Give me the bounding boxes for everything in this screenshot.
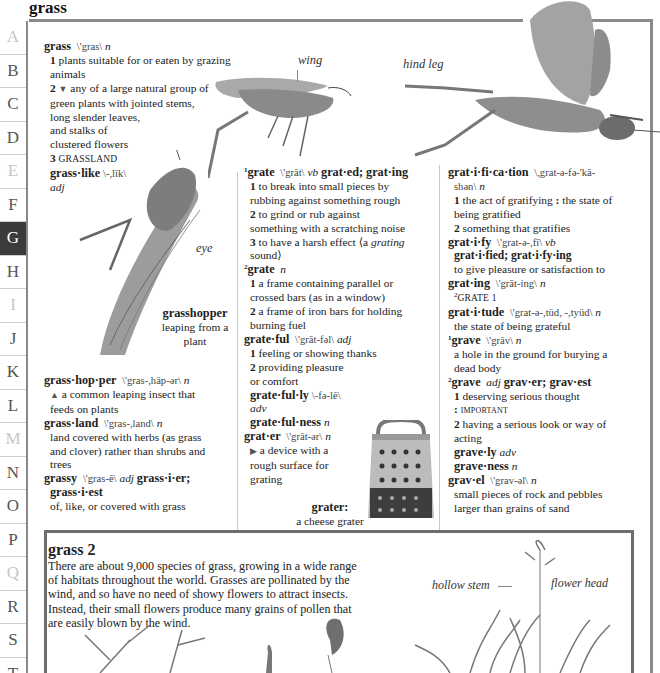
definition: something that gratifies xyxy=(463,222,571,234)
part-of-speech: adj xyxy=(337,333,352,345)
definition: to give pleasure or satisfaction to xyxy=(448,263,648,277)
grasshopper-flying-illustration xyxy=(385,0,660,160)
part-of-speech: n xyxy=(479,180,485,192)
sense-number: 2 xyxy=(50,82,56,94)
tab-c[interactable]: C xyxy=(0,88,26,122)
picture-pointer-right-icon: ▶ xyxy=(250,446,257,456)
column-divider-2 xyxy=(439,165,440,532)
tab-b[interactable]: B xyxy=(0,55,26,89)
page-title: grass xyxy=(29,0,67,18)
definition: feeling or showing thanks xyxy=(259,347,377,359)
definition-continued: long slender leaves, xyxy=(44,111,234,125)
grater-caption: grater: a cheese grater xyxy=(270,500,390,528)
pronunciation: \'gras\ xyxy=(77,41,102,52)
sense-number: 2 xyxy=(454,222,460,234)
example: ⟨a xyxy=(359,236,371,248)
tab-g[interactable]: G xyxy=(0,222,26,256)
cross-reference: grassland xyxy=(59,154,118,164)
part-of-speech: n xyxy=(105,40,111,52)
part-of-speech: n xyxy=(184,374,190,386)
definition: to have a harsh effect xyxy=(259,236,356,248)
part-of-speech: vb xyxy=(307,166,318,178)
tab-m[interactable]: M xyxy=(0,423,26,457)
colon-separator: : xyxy=(556,194,560,206)
definition: having a serious look or way of xyxy=(463,418,607,430)
sense-number: 3 xyxy=(250,236,256,248)
sense-number: 1 xyxy=(250,277,256,289)
pronunciation: \'grat-ə-,tüd, -,tyüd\ xyxy=(510,307,593,318)
tab-k[interactable]: K xyxy=(0,356,26,390)
tab-i[interactable]: I xyxy=(0,289,26,323)
sense-number: 1 xyxy=(250,180,256,192)
grater-caption-title: grater: xyxy=(312,500,349,514)
definition-continued: dead body xyxy=(448,362,648,376)
definition: a common leaping insect that xyxy=(62,388,195,400)
alphabet-sidebar: A B C D E F G H I J K L M N O P Q R S T xyxy=(0,21,28,673)
sense-number: 2 xyxy=(250,208,256,220)
tab-d[interactable]: D xyxy=(0,122,26,156)
grasshopper-caption: grasshopper leaping from a plant xyxy=(140,306,250,348)
headword-gratification: grat·i·fi·ca·tion xyxy=(448,165,529,179)
part-of-speech: n xyxy=(324,416,330,428)
pronunciation: \,grat-ə-fə-'kā- xyxy=(534,167,595,178)
grasshopper-caption-line2: plant xyxy=(184,335,207,347)
tab-p[interactable]: P xyxy=(0,524,26,558)
definition-continued: clustered flowers xyxy=(44,138,234,152)
headword-grass: grass xyxy=(44,39,71,53)
tab-n[interactable]: N xyxy=(0,457,26,491)
definition-continued: and clover) rather than shrubs and xyxy=(44,445,239,459)
definition-continued: green plants with jointed stems, xyxy=(44,97,234,111)
part-of-speech: n xyxy=(512,460,518,472)
inflected-form: grass·i·est xyxy=(44,486,239,500)
part-of-speech: n xyxy=(595,306,601,318)
grasshopper-caption-title: grasshopper xyxy=(163,306,228,320)
headword-gratify: grat·i·fy xyxy=(448,235,491,249)
tab-a[interactable]: A xyxy=(0,21,26,55)
tab-j[interactable]: J xyxy=(0,323,26,357)
headword-grave-2: grave xyxy=(452,375,481,389)
part-of-speech: n xyxy=(325,430,331,442)
pronunciation: \'grat-ə-,fī\ xyxy=(497,237,542,248)
headword-grate-2: grate xyxy=(248,262,275,276)
part-of-speech: adj xyxy=(486,376,501,388)
definition: of, like, or covered with grass xyxy=(44,500,239,514)
definition-continued: rubbing against something rough xyxy=(244,194,439,208)
pronunciation: \'grāt-fəl\ xyxy=(295,334,334,345)
sense-number: 3 xyxy=(50,152,56,164)
definition: small pieces of rock and pebbles xyxy=(448,488,648,502)
example-word: grating xyxy=(371,236,405,248)
derived-word: grave·ly xyxy=(454,445,497,459)
tab-t[interactable]: T xyxy=(0,658,26,673)
tab-f[interactable]: F xyxy=(0,189,26,223)
grater-caption-line1: a cheese grater xyxy=(296,515,364,527)
definition: the act of gratifying xyxy=(463,194,553,206)
pronunciation: \'gras-ē\ xyxy=(83,473,117,484)
tab-s[interactable]: S xyxy=(0,624,26,658)
definition: deserving serious thought xyxy=(463,390,580,402)
tab-l[interactable]: L xyxy=(0,390,26,424)
tab-q[interactable]: Q xyxy=(0,557,26,591)
part-of-speech: n xyxy=(157,417,163,429)
grasshopper-caption-line1: leaping from a xyxy=(162,321,228,333)
tab-e[interactable]: E xyxy=(0,155,26,189)
entries-column-3: grat·i·fi·ca·tion \,grat-ə-fə-'kā- shən\… xyxy=(448,166,648,516)
tab-o[interactable]: O xyxy=(0,490,26,524)
headword-grating: grat·ing xyxy=(448,276,490,290)
inflected-form: grat·i·fied; grat·i·fy·ing xyxy=(448,249,648,263)
cross-reference: grate 1 xyxy=(458,293,497,303)
derived-word: grass·like xyxy=(50,166,100,180)
definition-continued: acting xyxy=(448,432,648,446)
headword-gratitude: grat·i·tude xyxy=(448,305,504,319)
sense-number: 2 xyxy=(250,305,256,317)
headword-grateful: grate·ful xyxy=(244,332,289,346)
definition-continued: feeds on plants xyxy=(44,403,239,417)
inflected-form: grat·ed; grat·ing xyxy=(321,165,408,179)
sense-number: 2 xyxy=(454,418,460,430)
tab-h[interactable]: H xyxy=(0,256,26,290)
headword-grave-1: grave xyxy=(452,333,481,347)
tab-r[interactable]: R xyxy=(0,591,26,625)
headword-grasshopper: grass·hop·per xyxy=(44,373,116,387)
definition: a frame containing parallel or xyxy=(259,277,394,289)
pronunciation: \'gras-,land\ xyxy=(104,418,154,429)
grass-plant-illustration xyxy=(70,540,640,673)
